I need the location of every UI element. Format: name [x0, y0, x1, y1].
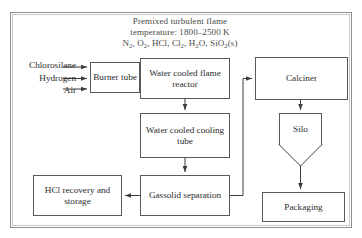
node-hcl-recovery-and-storage-label: HCl recovery and storage: [36, 185, 119, 207]
node-water-cooled-cooling-tube-label: Water cooled cooling tube: [143, 125, 227, 147]
node-water-cooled-cooling-tube[interactable]: Water cooled cooling tube: [140, 113, 230, 158]
node-burner-tube-label: Burner tube: [93, 72, 137, 83]
feed-label-chlorosilane: Chlorosilane: [14, 60, 76, 72]
node-calciner[interactable]: Calciner: [255, 57, 348, 100]
node-silo[interactable]: Silo: [279, 113, 322, 145]
annotation-species-line: N2, O2, HCl, Cl2, H2O, SiO2(s): [55, 38, 305, 49]
flame-conditions-annotation: Premixed turbulent flame temperature: 18…: [55, 16, 305, 50]
annotation-line-2: temperature: 1800–2500 K: [55, 27, 305, 38]
node-water-cooled-flame-reactor[interactable]: Water cooled flame reactor: [140, 58, 230, 99]
feed-stream-labels: Chlorosilane Hydrogen Air: [14, 60, 76, 97]
node-water-cooled-flame-reactor-label: Water cooled flame reactor: [143, 68, 227, 90]
process-flow-diagram: Premixed turbulent flame temperature: 18…: [0, 0, 362, 238]
feed-label-air: Air: [14, 85, 76, 97]
node-silo-label: Silo: [293, 124, 308, 135]
feed-label-hydrogen: Hydrogen: [14, 73, 76, 85]
node-gassolid-separation-label: Gassolid separation: [149, 190, 221, 201]
annotation-line-1: Premixed turbulent flame: [55, 16, 305, 27]
node-gassolid-separation[interactable]: Gassolid separation: [140, 175, 230, 216]
node-packaging-label: Packaging: [284, 202, 322, 213]
node-burner-tube[interactable]: Burner tube: [90, 62, 140, 93]
node-packaging[interactable]: Packaging: [262, 192, 345, 222]
node-calciner-label: Calciner: [286, 73, 317, 84]
node-hcl-recovery-and-storage[interactable]: HCl recovery and storage: [33, 175, 122, 216]
silo-funnel-shape: [279, 145, 322, 167]
arrow-gassolid-to-calciner: [230, 79, 252, 196]
